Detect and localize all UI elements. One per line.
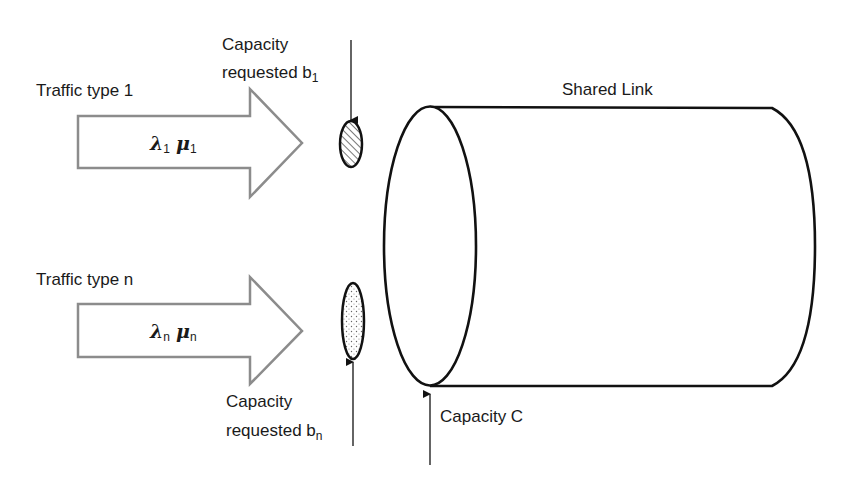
shared-link-diagram: Traffic type 1 λ1μ1 Capacity requested b… [0,0,842,482]
capacity-requested-1-line2: requested b1 [222,63,319,85]
lambda-1-subscript: 1 [163,142,170,156]
capacity-requested-n-line1: Capacity [226,392,293,411]
mu-n-subscript: n [190,330,197,344]
cylinder-front-face [384,107,476,386]
capacity-requested-1-text: requested b [222,63,312,82]
capacity-requested-1-line1: Capacity [222,35,289,54]
traffic-type-1-label: Traffic type 1 [36,81,133,100]
shared-link-label: Shared Link [562,80,653,99]
lambda-n-symbol: λ [149,320,163,342]
lambda-n-subscript: n [163,330,170,344]
traffic-type-n-label: Traffic type n [36,270,133,289]
cylinder-body [430,107,815,386]
capacity-requested-n-subscript: n [316,429,323,443]
mu-1-subscript: 1 [190,142,197,156]
capacity-c-label: Capacity C [440,407,523,426]
capacity-requested-n-text: requested b [226,421,316,440]
capacity-requested-n-line2: requested bn [226,421,322,443]
shared-link-cylinder [384,107,815,387]
mu-1-symbol: μ [176,132,190,154]
capacity-request-1-ellipse [340,121,362,167]
capacity-request-n-ellipse [342,283,364,359]
mu-n-symbol: μ [176,320,190,342]
lambda-1-symbol: λ [149,132,163,154]
capacity-requested-1-subscript: 1 [312,71,319,85]
